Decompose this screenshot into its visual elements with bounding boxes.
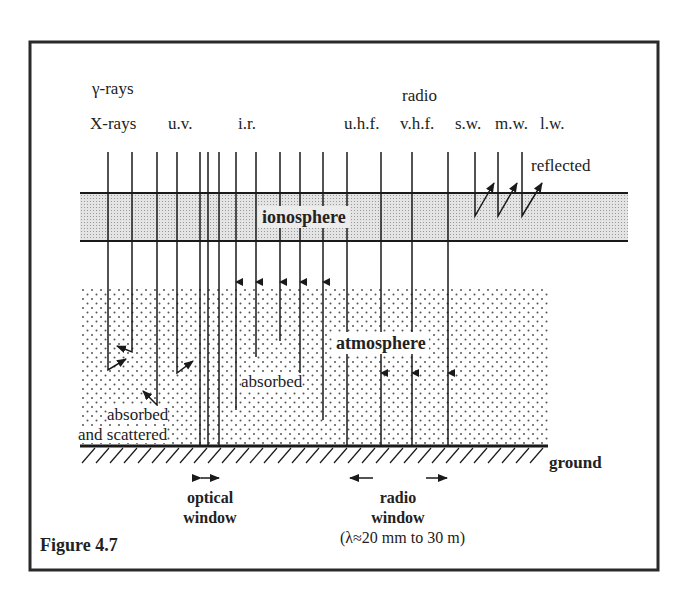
ionosphere-label: ionosphere xyxy=(258,206,350,228)
radio-window-line2: window xyxy=(368,508,428,528)
label-optical-window: optical window xyxy=(180,488,240,528)
label-uhf: u.h.f. xyxy=(344,115,379,132)
label-radio: radio xyxy=(402,87,437,104)
radio-window-line1: radio xyxy=(368,488,428,508)
label-uv: u.v. xyxy=(168,115,192,132)
label-radio-range: (λ≈20 mm to 30 m) xyxy=(340,530,465,546)
label-lw: l.w. xyxy=(540,115,564,132)
label-absorbed-ir: absorbed xyxy=(241,373,302,390)
label-vhf: v.h.f. xyxy=(400,115,434,132)
label-absorbed-scattered-2: and scattered xyxy=(78,426,167,443)
atmosphere-label: atmosphere xyxy=(333,332,429,354)
label-gamma-rays: γ-rays xyxy=(92,80,134,97)
label-absorbed-scattered-1: absorbed xyxy=(107,406,168,423)
label-mw: m.w. xyxy=(495,115,528,132)
ionosphere-layer xyxy=(80,193,628,241)
label-ir: i.r. xyxy=(238,115,256,132)
optical-window-line1: optical xyxy=(180,488,240,508)
label-reflected: reflected xyxy=(531,157,590,174)
label-x-rays: X-rays xyxy=(90,115,136,132)
label-sw: s.w. xyxy=(455,115,481,132)
ground-label: ground xyxy=(549,454,602,471)
ground-surface xyxy=(80,446,548,463)
figure-caption: Figure 4.7 xyxy=(40,536,118,554)
optical-window-line2: window xyxy=(180,508,240,528)
label-radio-window: radio window xyxy=(368,488,428,528)
